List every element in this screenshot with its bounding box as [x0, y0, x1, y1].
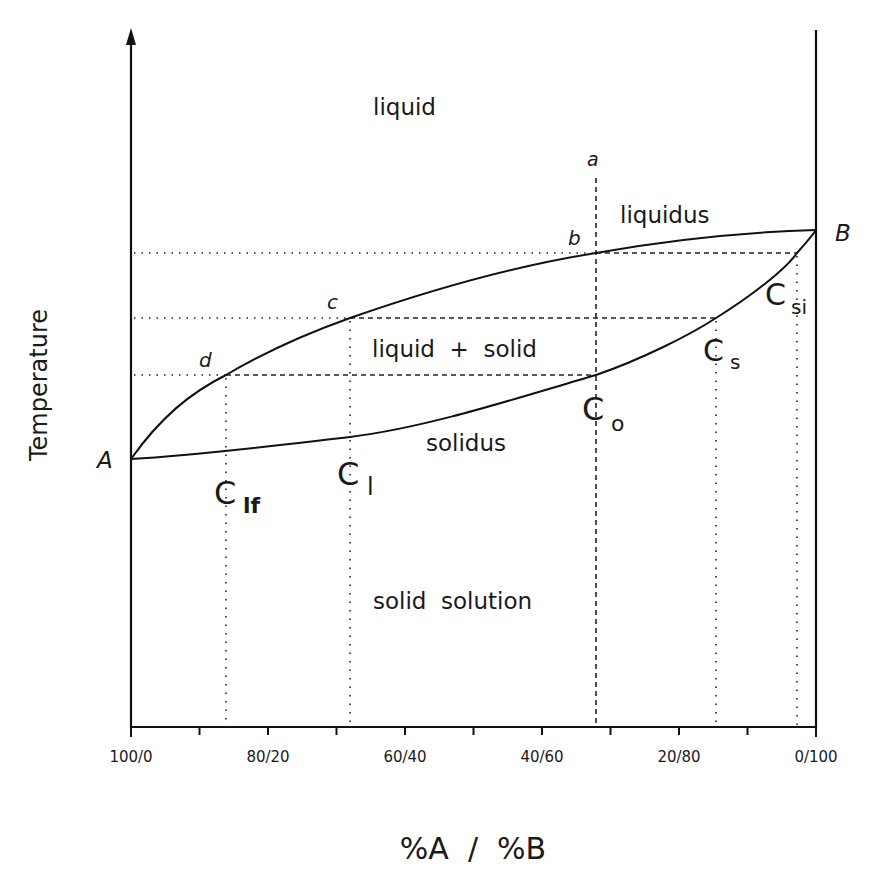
phase-diagram: liquid liquid + solid solid solution liq… — [0, 0, 881, 888]
tick-label: 40/60 — [520, 748, 563, 766]
tick-label: 0/100 — [794, 748, 837, 766]
svg-text:C: C — [703, 333, 724, 368]
svg-text:C: C — [337, 455, 359, 493]
svg-text:o: o — [611, 411, 624, 436]
point-b-label: b — [568, 226, 581, 250]
tick-label: 60/40 — [383, 748, 426, 766]
point-A-label: A — [95, 447, 113, 473]
svg-text:lf: lf — [243, 493, 261, 518]
composition-Cs-label: C s — [703, 333, 740, 374]
x-tick-labels: 100/0 80/20 60/40 40/60 20/80 0/100 — [109, 748, 837, 766]
region-two-phase-label: liquid + solid — [372, 336, 537, 362]
composition-Clf-label: C lf — [214, 474, 261, 518]
liquidus-label: liquidus — [620, 202, 710, 228]
svg-text:C: C — [582, 390, 604, 428]
svg-text:C: C — [765, 277, 786, 312]
point-c-label: c — [327, 290, 338, 314]
region-liquid-label: liquid — [373, 94, 436, 120]
svg-text:l: l — [367, 473, 374, 501]
x-axis-ticks — [131, 727, 816, 737]
region-solid-label: solid solution — [373, 588, 532, 614]
composition-Cl-label: C l — [337, 455, 374, 501]
svg-text:C: C — [214, 474, 236, 512]
solidus-label: solidus — [426, 430, 506, 456]
composition-Co-label: C o — [582, 390, 624, 436]
tick-label: 100/0 — [109, 748, 152, 766]
point-a-label: a — [587, 148, 599, 170]
y-axis-title: Temperature — [25, 309, 53, 462]
x-axis-title: %A / %B — [400, 831, 546, 866]
tick-label: 80/20 — [246, 748, 289, 766]
tick-label: 20/80 — [657, 748, 700, 766]
axes — [126, 28, 817, 737]
y-axis-arrow-icon — [126, 28, 136, 45]
svg-text:si: si — [791, 295, 807, 319]
composition-Csi-label: C si — [765, 277, 807, 319]
point-B-label: B — [835, 220, 851, 246]
point-d-label: d — [199, 348, 212, 372]
svg-text:s: s — [730, 350, 740, 374]
